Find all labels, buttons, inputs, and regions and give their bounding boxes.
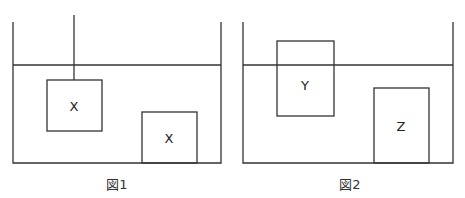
- container-2: [243, 22, 453, 163]
- label-x2: X: [165, 131, 174, 146]
- caption-figure-1: 図1: [106, 177, 127, 192]
- container-1: [13, 22, 221, 163]
- label-x1: X: [70, 99, 79, 114]
- label-y: Y: [300, 78, 309, 93]
- figure-1: [13, 15, 221, 163]
- diagram: X X Y Z 図1 図2: [0, 0, 465, 198]
- caption-figure-2: 図2: [339, 177, 360, 192]
- figure-2: [243, 22, 453, 163]
- label-z: Z: [397, 119, 406, 134]
